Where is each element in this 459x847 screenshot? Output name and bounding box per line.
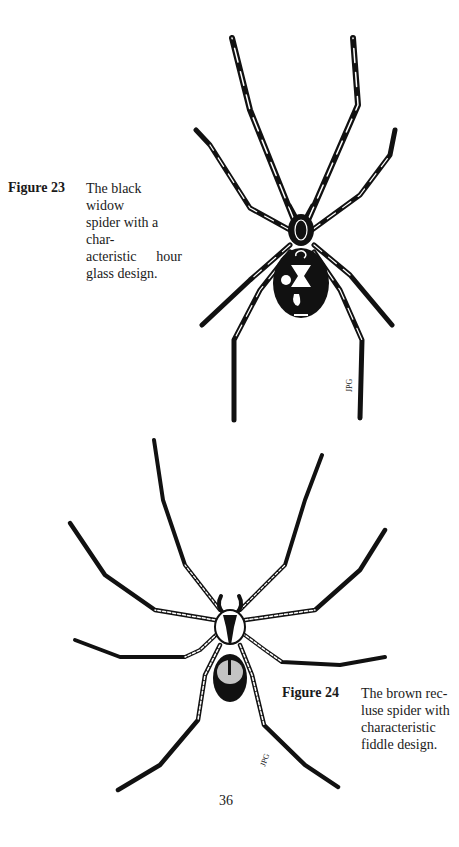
artist-signature: JPG [345,378,354,392]
figure-24-label: Figure 24 [282,685,339,701]
page-number: 36 [219,793,233,809]
figure-23-caption: The black widow spider with a char- acte… [86,180,182,282]
artist-signature: JPG [258,752,271,768]
caption-line: The brown rec- [361,685,451,702]
caption-line: acteristic hour [86,248,182,265]
caption-line: The black widow [86,180,182,214]
caption-line: glass design. [86,265,182,282]
figure-23-label: Figure 23 [8,180,65,196]
caption-line: fiddle design. [361,736,451,753]
brown-recluse-spider-icon: JPG [60,435,400,795]
brown-recluse-illustration: JPG [60,435,400,795]
caption-line: spider with a char- [86,214,182,248]
caption-line: characteristic [361,719,451,736]
caption-line: luse spider with [361,702,451,719]
black-widow-spider-icon: JPG [190,30,410,425]
figure-24-caption: The brown rec- luse spider with characte… [361,685,451,753]
black-widow-illustration: JPG [190,30,410,425]
